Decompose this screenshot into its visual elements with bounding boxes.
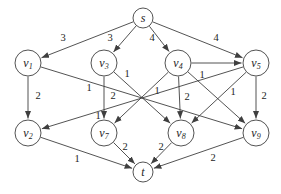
edge-weight-s-v4: 4 [149,32,155,43]
edge-s-v4: 4 [149,26,169,51]
edge-weight-v4-v9: 1 [199,69,204,80]
edge-line-s-v3 [113,26,136,52]
edge-line-v2-t [41,137,132,168]
node-label-sub-v9: 9 [257,132,261,141]
edge-weight-v3-v8: 1 [124,68,129,79]
node-label-sub-v5: 5 [257,62,261,71]
node-v8: v8 [168,120,194,146]
edge-weight-v2-t: 1 [74,153,79,164]
edge-weight-v5-v8: 1 [230,86,235,97]
edge-weight-s-v3: 3 [107,32,112,43]
node-label-sub-v3: 3 [104,62,109,71]
edge-line-s-v1 [42,22,134,58]
node-label-sub-v8: 8 [182,132,186,141]
node-label-sub-v1: 1 [29,62,33,71]
edge-v8-t: 2 [151,141,172,164]
edge-weight-v7-t: 2 [122,141,127,152]
node-v5: v5 [243,50,269,76]
node-s: s [133,8,153,28]
edge-weight-v3-v7: 2 [110,90,115,101]
node-v1: v1 [15,50,41,76]
edge-v9-t: 2 [154,137,243,168]
edge-weight-v4-v8: 2 [184,91,189,102]
edge-weight-v1-v2: 2 [35,90,40,101]
edge-v1-v2: 2 [28,77,41,119]
graph-canvas: 334422221111111222sv1v3v4v5v2v7v8v9t [0,0,281,194]
edge-line-v4-v8 [179,76,181,118]
node-v2: v2 [15,120,41,146]
edge-weight-v9-t: 2 [210,152,215,163]
node-v4: v4 [165,50,191,76]
edge-v7-t: 2 [114,141,135,164]
node-label-s: s [141,11,146,25]
edge-v2-t: 1 [41,137,132,168]
node-v7: v7 [91,120,117,146]
edge-line-s-v5 [153,22,243,58]
edge-weight-v5-v9: 2 [261,90,266,101]
node-label-main-s: s [141,11,146,25]
node-v9: v9 [243,120,269,146]
edge-v3-v7: 2 [104,77,116,119]
node-label-sub-v4: 4 [179,62,183,71]
edge-s-v1: 3 [42,22,134,58]
graph-diagram: 334422221111111222sv1v3v4v5v2v7v8v9t [0,0,281,194]
edge-weight-s-v5: 4 [213,32,219,43]
edge-weight-v8-t: 2 [158,141,163,152]
edge-line-v9-t [154,137,243,168]
edge-line-v4-v9 [188,72,245,123]
edge-weight-v1-v9: 1 [86,82,91,93]
edge-s-v5: 4 [153,22,243,58]
edge-weight-v5-v2: 1 [95,110,100,121]
node-label-sub-v2: 2 [29,132,33,141]
node-v3: v3 [91,50,117,76]
node-t: t [133,162,153,182]
edge-v5-v9: 2 [256,77,267,119]
edge-weight-s-v1: 3 [60,32,65,43]
